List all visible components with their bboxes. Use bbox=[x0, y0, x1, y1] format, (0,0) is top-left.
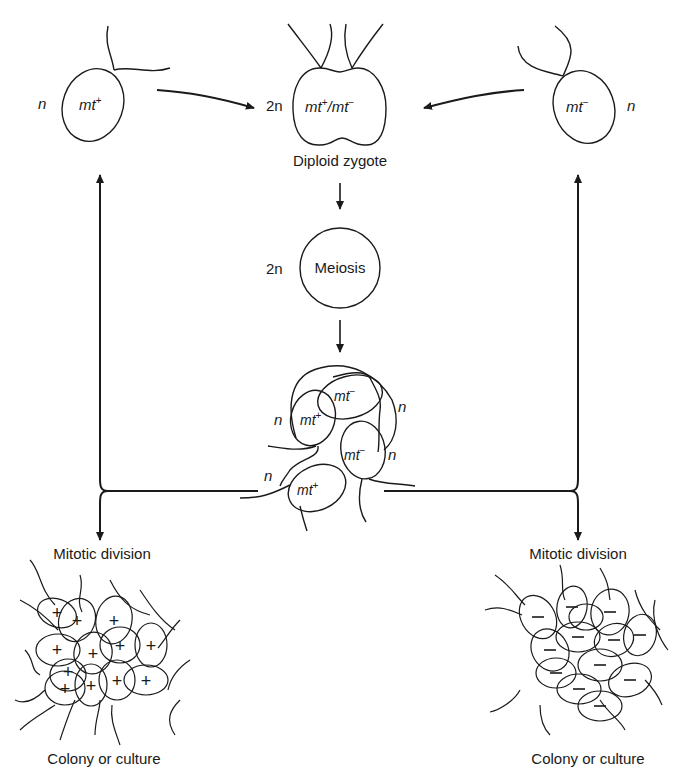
svg-text:+: + bbox=[141, 671, 152, 691]
tetrad-cell-label: mt− bbox=[334, 386, 355, 404]
zygote-ploidy-label: 2n bbox=[266, 97, 283, 114]
meiosis-label: Meiosis bbox=[315, 259, 366, 276]
tetrad-cell-label: mt− bbox=[344, 445, 365, 463]
svg-text:+: + bbox=[146, 636, 157, 656]
ploidy-label: n bbox=[627, 97, 635, 114]
svg-text:+: + bbox=[72, 611, 83, 631]
plus-sign-icon: + bbox=[52, 603, 63, 623]
meiosis-ploidy-label: 2n bbox=[266, 260, 283, 277]
left-colony-label: Colony or culture bbox=[47, 750, 160, 767]
svg-text:+: + bbox=[115, 636, 126, 656]
zygote-genotype-label: mt+/mt− bbox=[305, 97, 354, 115]
right-mitotic-division-label: Mitotic division bbox=[529, 545, 627, 562]
svg-text:+: + bbox=[88, 644, 99, 664]
tetrad-cell-label: mt+ bbox=[297, 480, 318, 498]
return-paths bbox=[100, 175, 578, 540]
plus-colony bbox=[15, 560, 190, 745]
mt-plus-gamete-cell bbox=[52, 26, 170, 150]
right-colony-label: Colony or culture bbox=[531, 750, 644, 767]
arrow-to-zygote-right bbox=[424, 90, 524, 108]
ploidy-label: n bbox=[274, 411, 282, 428]
arrow-to-zygote-left bbox=[157, 90, 254, 108]
svg-text:+: + bbox=[60, 679, 71, 699]
zygote-cell bbox=[288, 24, 386, 145]
minus-colony bbox=[485, 565, 668, 735]
mating-type-label: mt+ bbox=[79, 95, 102, 113]
svg-text:+: + bbox=[52, 640, 63, 660]
left-mitotic-division-label: Mitotic division bbox=[53, 545, 151, 562]
zygote-caption: Diploid zygote bbox=[293, 152, 387, 169]
ploidy-label: n bbox=[398, 398, 406, 415]
mating-type-label: mt− bbox=[566, 97, 589, 115]
ploidy-label: n bbox=[388, 446, 396, 463]
ploidy-label: n bbox=[264, 467, 272, 484]
svg-text:+: + bbox=[109, 611, 120, 631]
ploidy-label: n bbox=[38, 95, 46, 112]
mt-minus-gamete-cell bbox=[518, 26, 625, 152]
tetrad-cell-label: mt+ bbox=[300, 410, 321, 428]
svg-text:+: + bbox=[112, 671, 123, 691]
svg-text:+: + bbox=[86, 676, 97, 696]
